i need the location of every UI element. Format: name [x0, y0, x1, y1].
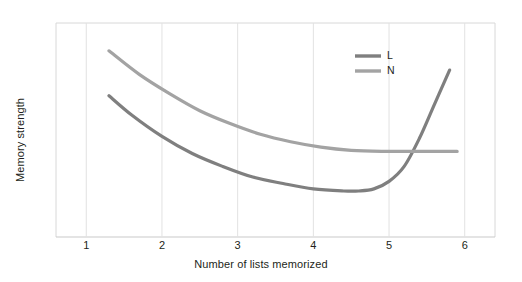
memory-strength-chart: 123456 Number of lists memorized Memory … [0, 0, 522, 282]
legend-swatches [355, 56, 381, 71]
legend [0, 0, 522, 282]
legend-label-L: L [387, 49, 393, 61]
legend-label-N: N [387, 64, 395, 76]
